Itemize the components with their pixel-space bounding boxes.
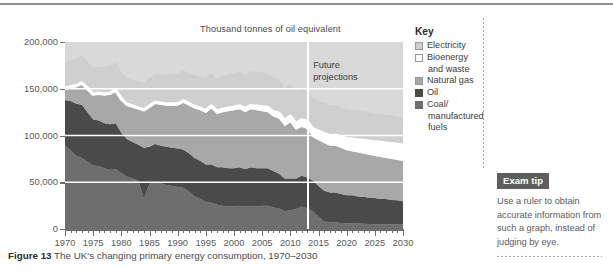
x-tick-label: 2000 [224,237,245,248]
figure-number: Figure 13 [8,250,52,261]
x-tick-minor [116,230,117,233]
x-tick-minor [268,230,269,233]
x-tick-minor [358,230,359,233]
x-tick-minor [324,230,325,233]
exam-tip-dotted-underline [497,256,602,257]
x-tick-major [319,230,320,236]
x-tick-minor [217,230,218,233]
key-item-electricity[interactable]: Electricity [413,40,483,51]
key-swatch-bioenergy [415,54,423,62]
x-tick-label: 1970 [55,237,76,248]
x-tick-label: 2020 [336,237,357,248]
key-label-coal: Coal/ [427,99,448,110]
x-tick-minor [380,230,381,233]
x-tick-major [375,230,376,236]
x-tick-minor [228,230,229,233]
x-tick-minor [273,230,274,233]
future-projections-line2: projections [313,72,357,84]
figure-caption-text: The UK's changing primary energy consump… [54,250,317,261]
key-label-bioenergy-line2: and waste [428,64,483,75]
top-divider-rule [0,3,613,5]
x-tick-minor [110,230,111,233]
key-swatch-oil [415,89,423,97]
x-tick-minor [183,230,184,233]
projection-divider-line [307,42,309,229]
x-tick-label: 2030 [393,237,414,248]
x-tick-minor [386,230,387,233]
x-tick-major [121,230,122,236]
x-tick-minor [313,230,314,233]
x-tick-minor [257,230,258,233]
key-label-bioenergy: Bioenergy [427,52,468,63]
x-tick-major [150,230,151,236]
key-label-natural-gas: Natural gas [427,75,474,86]
x-tick-minor [161,230,162,233]
x-tick-minor [189,230,190,233]
x-tick-label: 1995 [195,237,216,248]
x-tick-minor [279,230,280,233]
x-tick-major [403,230,404,236]
x-tick-major [290,230,291,236]
x-tick-minor [211,230,212,233]
key-item-coal[interactable]: Coal/ [413,99,483,110]
future-projections-line1: Future [313,60,357,72]
x-tick-label: 1985 [139,237,160,248]
x-tick-minor [341,230,342,233]
chart-plot-area: Future projections [65,42,403,229]
x-tick-minor [251,230,252,233]
x-tick-minor [138,230,139,233]
key-swatch-electricity [415,42,423,50]
x-tick-minor [335,230,336,233]
x-tick-major [178,230,179,236]
x-tick-minor [307,230,308,233]
y-tick-label: 100,000 [2,130,58,141]
x-tick-minor [71,230,72,233]
x-tick-minor [240,230,241,233]
chart-axis-title: Thousand tonnes of oil equivalent [200,24,415,34]
y-tick-label: 50,000 [2,176,58,187]
y-tick-label: 0 [2,223,58,234]
chart-panel: Thousand tonnes of oil equivalent 200,00… [0,10,468,242]
x-tick-minor [76,230,77,233]
x-tick-major [65,230,66,236]
y-axis-labels: 200,000 150,000 100,000 50,000 0 [0,10,58,197]
key-item-natural-gas[interactable]: Natural gas [413,75,483,86]
figure-caption: Figure 13 The UK's changing primary ener… [8,250,317,261]
x-tick-label: 2005 [252,237,273,248]
key-title: Key [415,26,483,37]
future-projections-label: Future projections [313,60,357,83]
x-tick-major [206,230,207,236]
x-tick-minor [397,230,398,233]
figure-page: Thousand tonnes of oil equivalent 200,00… [0,0,613,271]
x-tick-major [347,230,348,236]
x-tick-minor [245,230,246,233]
exam-tip-box: Exam tip Use a ruler to obtain accurate … [497,170,607,249]
x-tick-minor [155,230,156,233]
x-tick-minor [88,230,89,233]
x-axis-ticks [65,230,404,236]
x-tick-minor [144,230,145,233]
x-tick-major [93,230,94,236]
key-label-coal-line3: fuels [428,122,483,133]
x-tick-label: 1975 [83,237,104,248]
key-label-coal-line2: manufactured [428,111,483,122]
x-tick-minor [82,230,83,233]
x-tick-minor [200,230,201,233]
x-tick-label: 1980 [111,237,132,248]
sidebar-dotted-divider [483,18,484,170]
x-tick-minor [369,230,370,233]
chart-key: Key Electricity Bioenergy and waste Natu… [413,26,483,133]
x-tick-minor [104,230,105,233]
key-item-bioenergy[interactable]: Bioenergy [413,52,483,63]
x-tick-minor [392,230,393,233]
x-tick-minor [127,230,128,233]
x-tick-minor [285,230,286,233]
key-label-electricity: Electricity [427,40,466,51]
x-tick-minor [302,230,303,233]
y-tick-label: 200,000 [2,36,58,47]
exam-tip-text: Use a ruler to obtain accurate informati… [497,195,607,249]
x-tick-minor [195,230,196,233]
key-item-oil[interactable]: Oil [413,87,483,98]
x-tick-minor [223,230,224,233]
x-tick-minor [133,230,134,233]
